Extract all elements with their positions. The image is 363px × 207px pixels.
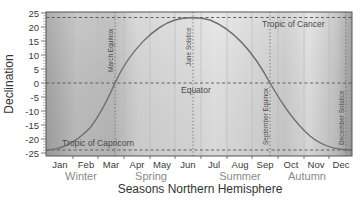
month-nov: Nov bbox=[308, 159, 325, 170]
y-tick-20: 20 bbox=[28, 22, 39, 33]
y-tick-minus-5: -5 bbox=[31, 92, 39, 103]
month-apr: Apr bbox=[130, 159, 145, 170]
month-may: May bbox=[153, 159, 171, 170]
month-mar: Mar bbox=[103, 159, 119, 170]
y-tick-minus-10: -10 bbox=[25, 106, 39, 117]
season-autumn: Autumn bbox=[288, 170, 326, 182]
month-oct: Oct bbox=[284, 159, 299, 170]
x-axis-labels: Jan Feb Mar Apr May Jun Jul Aug Sep Oct … bbox=[52, 159, 349, 170]
june-solstice-label: June Solstice bbox=[185, 27, 192, 66]
y-axis-title: Declination bbox=[2, 54, 16, 113]
month-jan: Jan bbox=[52, 159, 67, 170]
y-axis-labels: 25 20 15 10 5 0 -5 -10 -15 -20 -25 bbox=[25, 8, 39, 159]
y-tick-minus-25: -25 bbox=[25, 148, 39, 159]
plot-background-shade bbox=[46, 12, 352, 156]
month-jul: Jul bbox=[208, 159, 220, 170]
y-tick-minus-15: -15 bbox=[25, 120, 39, 131]
declination-chart: Tropic of Cancer Equator Tropic of Capri… bbox=[0, 0, 363, 207]
september-equinox-label: September Equinox bbox=[262, 87, 270, 145]
season-summer: Summer bbox=[219, 170, 261, 182]
season-winter: Winter bbox=[65, 170, 97, 182]
y-axis-ticks bbox=[41, 13, 46, 153]
season-spring: Spring bbox=[135, 170, 167, 182]
tropic-of-capricorn-label: Tropic of Capricorn bbox=[62, 138, 134, 148]
march-equinox-label: March Equinox bbox=[107, 28, 115, 72]
month-jun: Jun bbox=[180, 159, 195, 170]
equator-label: Equator bbox=[181, 85, 211, 95]
december-solstice-label: December Solstice bbox=[338, 90, 345, 145]
month-aug: Aug bbox=[232, 159, 249, 170]
y-tick-15: 15 bbox=[28, 36, 39, 47]
y-tick-10: 10 bbox=[28, 50, 39, 61]
y-tick-minus-20: -20 bbox=[25, 134, 39, 145]
x-axis-title: Seasons Northern Hemisphere bbox=[118, 182, 283, 196]
month-feb: Feb bbox=[78, 159, 94, 170]
month-sep: Sep bbox=[257, 159, 274, 170]
month-dec: Dec bbox=[333, 159, 350, 170]
y-tick-5: 5 bbox=[34, 64, 39, 75]
season-labels: Winter Spring Summer Autumn bbox=[65, 170, 326, 182]
tropic-of-cancer-label: Tropic of Cancer bbox=[262, 19, 325, 29]
y-tick-0: 0 bbox=[34, 78, 39, 89]
y-tick-25: 25 bbox=[28, 8, 39, 19]
plot-area bbox=[46, 12, 352, 156]
